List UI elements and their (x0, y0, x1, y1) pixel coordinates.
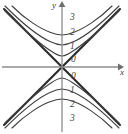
plot-canvas (0, 0, 128, 134)
level-label-lower-2: 2 (70, 100, 75, 110)
y-axis-label: y (52, 1, 56, 10)
level-label-lower-0: 0 (71, 72, 76, 82)
level-label-upper-0: 0 (71, 55, 76, 65)
y-axis-arrowhead (59, 1, 66, 7)
x-axis-label: x (120, 68, 124, 77)
level-label-lower-3: 3 (70, 114, 75, 124)
level-label-upper-1: 1 (70, 42, 75, 52)
hyperbola-contour-figure: y x 3 2 1 0 0 1 2 3 (0, 0, 128, 134)
level-label-upper-3: 3 (70, 13, 75, 23)
level-label-upper-2: 2 (70, 28, 75, 38)
level-label-lower-1: 1 (70, 86, 75, 96)
